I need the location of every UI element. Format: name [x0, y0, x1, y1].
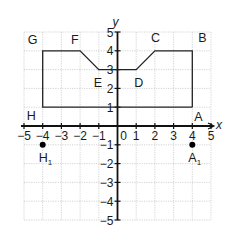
point-a1 [189, 142, 195, 148]
x-tick-label: −5 [17, 129, 31, 143]
vertex-label-a: A [194, 110, 203, 124]
vertex-label-h: H [27, 109, 36, 123]
vertex-label-d: D [134, 76, 143, 90]
point-label-a1: A1 [188, 151, 201, 167]
axes [21, 32, 214, 220]
x-axis-label: x [215, 118, 223, 132]
y-axis-label: y [112, 15, 120, 29]
vertex-label-c: C [151, 31, 160, 45]
point-label-h1: H1 [39, 151, 53, 167]
x-tick-label: 5 [208, 129, 215, 143]
y-tick-label: −4 [100, 195, 114, 209]
vertex-label-g: G [28, 33, 38, 47]
x-tick-label: 2 [152, 129, 159, 143]
x-tick-label: −3 [55, 129, 69, 143]
x-tick-label: −2 [73, 129, 87, 143]
y-tick-label: −2 [100, 157, 114, 171]
vertex-label-e: E [94, 76, 102, 90]
x-tick-label: 4 [189, 129, 196, 143]
coordinate-grid-diagram: −5−4−3−2−101234512345−1−2−3−4−5 ABCDEFGH… [0, 0, 235, 240]
point-h1 [40, 142, 46, 148]
x-tick-label: 3 [170, 129, 177, 143]
y-tick-label: −3 [100, 176, 114, 190]
coordinate-plane: −5−4−3−2−101234512345−1−2−3−4−5 ABCDEFGH… [0, 0, 235, 240]
vertex-label-f: F [71, 33, 79, 47]
y-tick-label: 4 [107, 44, 114, 58]
y-tick-label: −5 [100, 214, 114, 228]
vertex-label-b: B [198, 31, 206, 45]
x-tick-label: 0 [120, 129, 127, 143]
y-tick-label: 2 [107, 82, 114, 96]
y-tick-label: −1 [100, 138, 114, 152]
x-tick-label: 1 [133, 129, 140, 143]
x-tick-label: −4 [36, 129, 50, 143]
